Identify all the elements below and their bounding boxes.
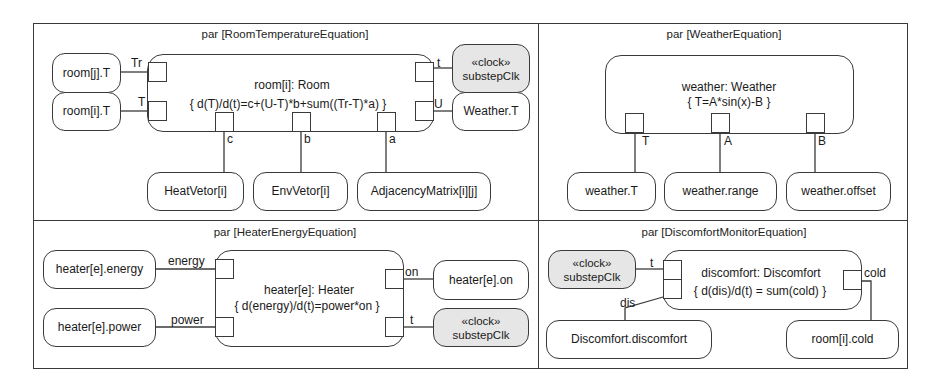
port-label-c: c [227, 133, 233, 145]
clock-name: substepClk [463, 69, 520, 83]
port-label-power: power [171, 314, 204, 326]
block-heater-name: heater[e]: Heater [264, 283, 354, 298]
node-weather-offset[interactable]: weather.offset [786, 172, 891, 211]
port-label-discomfort-t: t [650, 257, 653, 269]
block-weather-equation: { T=A*sin(x)-B } [688, 95, 771, 110]
node-room-j-t[interactable]: room[j].T [52, 53, 121, 93]
block-room-name: room[i]: Room [254, 78, 329, 93]
port-weather-a[interactable] [711, 113, 730, 133]
block-room-equation: { d(T)/d(t)=c+(U-T)*b+sum((Tr-T)*a) } [190, 97, 387, 112]
port-label-u: U [434, 98, 443, 110]
panel-title-room: par [RoomTemperatureEquation] [202, 28, 369, 40]
port-label-weather-b: B [818, 135, 826, 147]
block-discomfort-equation: { d(dis)/d(t) = sum(cold) } [694, 284, 826, 299]
port-label-b: b [304, 133, 311, 145]
clock-stereotype: «clock» [462, 314, 501, 328]
port-heater-t[interactable] [385, 317, 404, 337]
node-weather-t[interactable]: weather.T [567, 172, 656, 211]
port-weather-t[interactable] [625, 113, 644, 133]
node-heater-clock[interactable]: «clock» substepClk [433, 308, 529, 347]
port-label-cold: cold [864, 267, 886, 279]
clock-name: substepClk [564, 270, 621, 284]
port-heater-on[interactable] [385, 269, 404, 289]
port-label-weather-t: T [642, 135, 649, 147]
port-label-t: T [138, 96, 145, 108]
panel-title-heater: par [HeaterEnergyEquation] [214, 226, 357, 238]
port-label-clock-t: t [437, 57, 440, 69]
clock-stereotype: «clock» [472, 55, 511, 69]
port-heater-power[interactable] [215, 317, 234, 337]
block-heater-equation: { d(energy)/d(t)=power*on } [234, 299, 379, 314]
port-label-on: on [405, 266, 418, 278]
panel-title-discomfort: par [DiscomfortMonitorEquation] [642, 226, 807, 238]
port-room-tr[interactable] [148, 62, 167, 82]
node-heater-energy[interactable]: heater[e].energy [43, 250, 156, 289]
port-discomfort-cold[interactable] [843, 270, 862, 290]
port-room-c[interactable] [215, 112, 234, 132]
port-label-energy: energy [168, 255, 205, 267]
port-discomfort-dis[interactable] [663, 279, 682, 299]
port-label-heater-t: t [410, 314, 413, 326]
port-discomfort-t[interactable] [663, 260, 682, 280]
clock-stereotype: «clock» [573, 256, 612, 270]
port-room-b[interactable] [292, 112, 311, 132]
node-weather-range[interactable]: weather.range [664, 172, 777, 211]
port-room-t[interactable] [148, 101, 167, 121]
block-weather-name: weather: Weather [682, 80, 777, 95]
node-room-cold[interactable]: room[i].cold [786, 320, 899, 359]
port-label-dis: dis [620, 297, 635, 309]
port-label-tr: Tr [131, 57, 142, 69]
node-room-i-t[interactable]: room[i].T [52, 92, 121, 131]
port-room-u[interactable] [415, 101, 434, 121]
node-weather-t-ref[interactable]: Weather.T [452, 92, 530, 131]
node-discomfort-clock[interactable]: «clock» substepClk [548, 250, 636, 289]
clock-name: substepClk [453, 328, 510, 342]
node-heater-on[interactable]: heater[e].on [433, 260, 529, 300]
node-heater-power[interactable]: heater[e].power [43, 308, 156, 347]
node-adjacency-matrix[interactable]: AdjacencyMatrix[i][j] [357, 172, 491, 211]
port-weather-b[interactable] [806, 113, 825, 133]
node-discomfort-discomfort[interactable]: Discomfort.discomfort [546, 320, 712, 359]
node-room-clock[interactable]: «clock» substepClk [452, 44, 530, 93]
port-room-clock-t[interactable] [415, 62, 434, 82]
block-discomfort-name: discomfort: Discomfort [701, 266, 820, 281]
port-label-weather-a: A [724, 135, 732, 147]
node-heat-vetor[interactable]: HeatVetor[i] [147, 172, 244, 211]
port-room-a[interactable] [377, 112, 396, 132]
panel-title-weather: par [WeatherEquation] [667, 28, 782, 40]
port-label-a: a [389, 133, 396, 145]
node-env-vetor[interactable]: EnvVetor[i] [253, 172, 348, 211]
port-heater-energy[interactable] [215, 259, 234, 279]
